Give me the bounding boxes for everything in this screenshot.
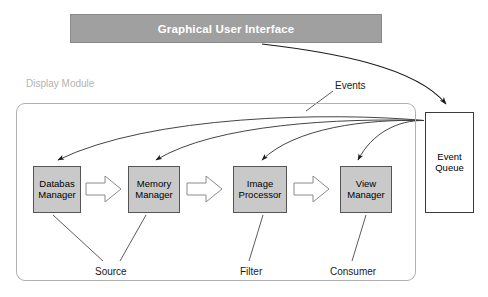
node-view-manager-line2: Manager	[347, 190, 385, 201]
node-memory-manager: Memory Manager	[128, 166, 180, 213]
annotation-consumer: Consumer	[330, 266, 376, 277]
node-image-processor-line1: Image	[247, 179, 273, 190]
arrow-gui-to-event-queue	[262, 44, 446, 104]
architecture-diagram: Graphical User Interface Display Module …	[0, 0, 488, 297]
node-database-manager-line2: Manager	[38, 190, 76, 201]
annotation-filter: Filter	[240, 266, 262, 277]
node-event-queue-line2: Queue	[435, 163, 464, 174]
node-view-manager-line1: View	[356, 179, 376, 190]
node-image-processor: Image Processor	[233, 166, 287, 213]
node-event-queue-line1: Event	[437, 152, 461, 163]
node-memory-manager-line1: Memory	[137, 179, 171, 190]
annotation-source: Source	[95, 266, 127, 277]
node-event-queue: Event Queue	[425, 112, 474, 213]
graphical-user-interface-label: Graphical User Interface	[158, 23, 295, 35]
node-view-manager: View Manager	[340, 166, 392, 213]
node-database-manager: Databas Manager	[33, 166, 81, 213]
display-module-label: Display Module	[26, 78, 94, 89]
node-image-processor-line2: Processor	[239, 190, 282, 201]
node-database-manager-line1: Databas	[39, 179, 74, 190]
node-memory-manager-line2: Manager	[135, 190, 173, 201]
graphical-user-interface-banner: Graphical User Interface	[70, 14, 382, 43]
annotation-events: Events	[335, 80, 366, 91]
